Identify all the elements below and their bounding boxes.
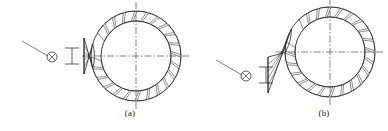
figure-caption-a: (a) bbox=[112, 108, 148, 118]
section-i-beam-mark bbox=[65, 48, 79, 64]
blade-segment bbox=[285, 41, 295, 54]
blade-segment bbox=[299, 14, 309, 30]
blade-segment bbox=[133, 11, 146, 21]
blade-segment bbox=[125, 91, 138, 101]
blade-segment bbox=[171, 53, 181, 66]
blade-segment bbox=[319, 87, 332, 97]
wedge-nozzle-inlet bbox=[268, 29, 291, 93]
figure-a bbox=[22, 2, 190, 110]
blade-segment bbox=[365, 49, 375, 62]
engineering-drawing-sheet: (a) (b) bbox=[0, 0, 388, 131]
circled-cross-symbol bbox=[241, 71, 251, 81]
leader-line bbox=[22, 41, 48, 56]
circled-cross-symbol bbox=[47, 52, 57, 62]
figure-b bbox=[216, 0, 384, 106]
blade-segment bbox=[327, 7, 340, 17]
leader-line bbox=[216, 60, 242, 75]
figure-caption-b: (b) bbox=[306, 108, 342, 118]
